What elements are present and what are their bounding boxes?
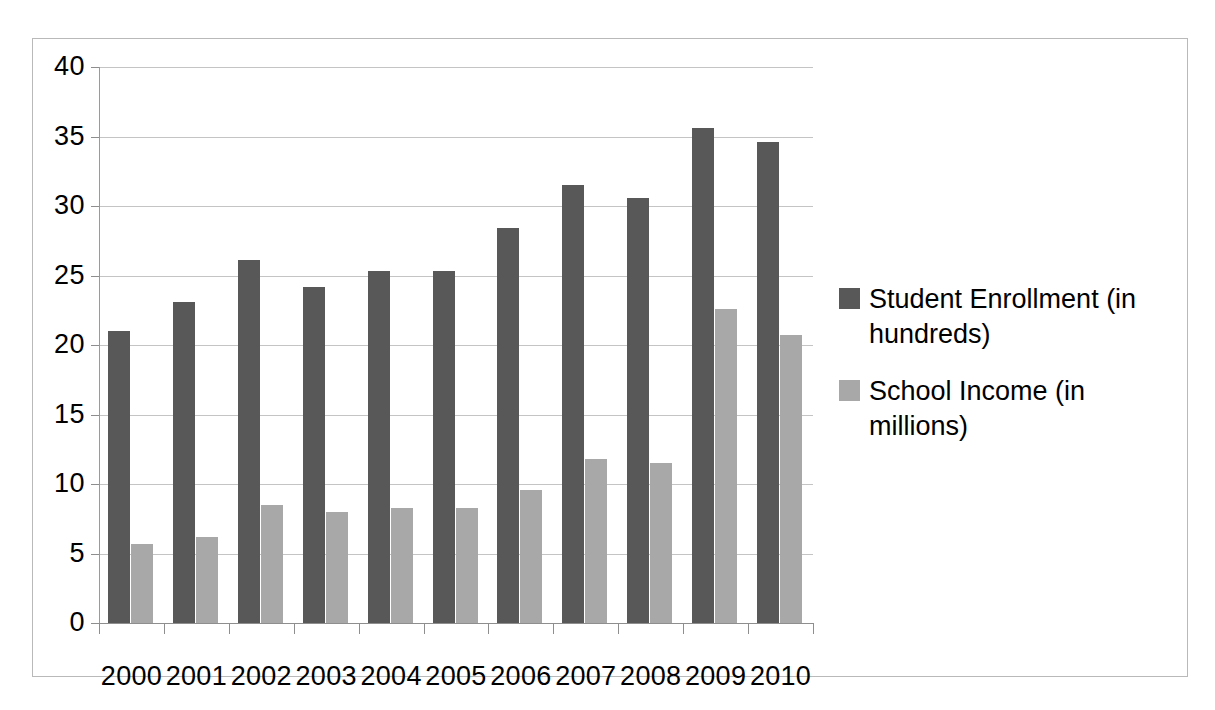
bar — [627, 198, 649, 623]
y-tick-label: 30 — [33, 192, 85, 219]
y-tick-label: 20 — [33, 331, 85, 358]
bar — [196, 537, 218, 623]
y-tick-label: 0 — [33, 609, 85, 636]
x-tick-mark — [99, 623, 100, 634]
legend-swatch-icon — [839, 288, 860, 309]
bar — [757, 142, 779, 623]
legend-item[interactable]: School Income (in millions) — [839, 374, 1179, 444]
x-tick-mark — [683, 623, 684, 634]
bar — [391, 508, 413, 623]
bar — [456, 508, 478, 623]
y-tick-label: 15 — [33, 401, 85, 428]
chart-legend: Student Enrollment (in hundreds)School I… — [839, 282, 1179, 466]
x-axis-line — [99, 623, 813, 624]
x-tick-mark — [553, 623, 554, 634]
y-tick-label: 10 — [33, 470, 85, 497]
bar — [780, 335, 802, 623]
bar — [326, 512, 348, 623]
bar — [238, 260, 260, 623]
bar — [692, 128, 714, 623]
bar — [715, 309, 737, 623]
x-tick-mark — [618, 623, 619, 634]
chart-frame: 0510152025303540 20002001200220032004200… — [32, 38, 1188, 677]
x-tick-mark — [748, 623, 749, 634]
legend-label: Student Enrollment (in hundreds) — [869, 282, 1159, 352]
y-tick-label: 40 — [33, 53, 85, 80]
x-tick-mark — [488, 623, 489, 634]
bar — [261, 505, 283, 623]
legend-swatch-icon — [839, 380, 860, 401]
bar — [520, 490, 542, 623]
x-tick-mark — [424, 623, 425, 634]
bar — [497, 228, 519, 623]
bar — [562, 185, 584, 623]
bar — [433, 271, 455, 623]
plot-wrap: 0510152025303540 20002001200220032004200… — [33, 39, 1189, 678]
y-tick-label: 5 — [33, 540, 85, 567]
bar — [650, 463, 672, 623]
y-tick-label: 25 — [33, 262, 85, 289]
x-tick-mark — [294, 623, 295, 634]
bar — [131, 544, 153, 623]
legend-item[interactable]: Student Enrollment (in hundreds) — [839, 282, 1179, 352]
bar — [368, 271, 390, 623]
bar — [303, 287, 325, 623]
plot-area — [99, 67, 813, 623]
x-tick-mark — [164, 623, 165, 634]
legend-label: School Income (in millions) — [869, 374, 1159, 444]
x-tick-mark — [229, 623, 230, 634]
bar — [108, 331, 130, 623]
bar — [585, 459, 607, 623]
y-tick-label: 35 — [33, 123, 85, 150]
bar — [173, 302, 195, 623]
x-tick-mark — [359, 623, 360, 634]
x-tick-mark — [813, 623, 814, 634]
x-tick-label: 2010 — [736, 661, 826, 691]
